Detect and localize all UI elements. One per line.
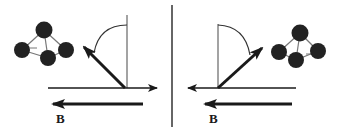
left-angle-arc <box>94 25 127 53</box>
right-angle-arc <box>218 25 250 55</box>
atom-icon <box>58 42 74 58</box>
atom-icon <box>310 43 326 59</box>
atom-icon <box>292 25 309 42</box>
left-panel <box>14 15 157 104</box>
atom-icon <box>288 52 304 68</box>
right-molecule <box>271 25 326 69</box>
diagram-canvas: B B <box>0 0 346 132</box>
right-field-label: B <box>209 112 218 125</box>
left-field-label: B <box>56 112 65 125</box>
diagram-svg <box>0 0 346 132</box>
atom-icon <box>36 22 53 39</box>
left-molecule <box>14 22 74 67</box>
right-magnetic-moment-arrow <box>218 48 262 88</box>
atom-icon <box>40 50 56 66</box>
right-panel <box>188 24 326 104</box>
atom-icon <box>14 42 30 58</box>
left-magnetic-moment-arrow <box>84 47 125 88</box>
atom-icon <box>271 44 287 60</box>
